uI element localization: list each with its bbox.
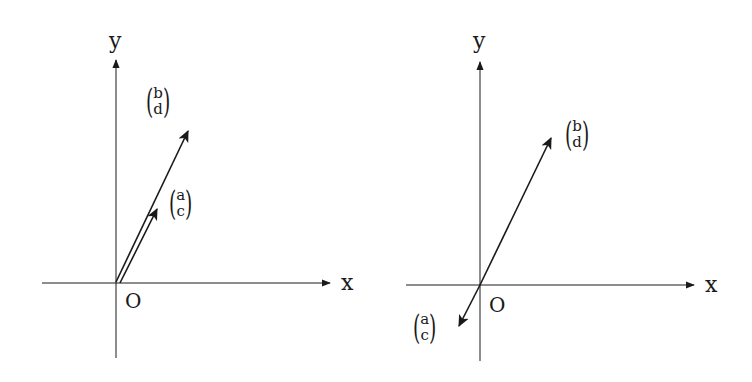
vector-bottom-entry: c bbox=[177, 203, 185, 219]
right-vector-ac-label: ( a c ) bbox=[410, 310, 439, 344]
right-origin-label: O bbox=[489, 293, 505, 317]
right-paren: ) bbox=[163, 84, 170, 118]
right-y-label: y bbox=[472, 28, 486, 53]
right-paren: ) bbox=[429, 310, 436, 344]
left-paren: ( bbox=[169, 186, 176, 220]
right-paren: ) bbox=[185, 186, 192, 220]
left-origin-label: O bbox=[125, 289, 141, 313]
left-y-label: y bbox=[108, 28, 122, 53]
left-x-label: x bbox=[341, 270, 354, 295]
right-vector-bd-label: ( b d ) bbox=[562, 117, 592, 151]
vector-top-entry: b bbox=[153, 85, 163, 101]
left-paren: ( bbox=[565, 117, 572, 151]
right-paren: ) bbox=[582, 117, 589, 151]
left-vector-ac-label: ( a c ) bbox=[166, 186, 195, 220]
vector-bottom-entry: c bbox=[421, 327, 429, 343]
diagram-canvas: y x O y x O bbox=[0, 0, 752, 382]
left-vector-ac bbox=[120, 209, 157, 283]
vector-top-entry: b bbox=[572, 118, 582, 134]
left-vector-bd-label: ( b d ) bbox=[143, 84, 173, 118]
left-paren: ( bbox=[146, 84, 153, 118]
vector-top-entry: a bbox=[176, 187, 185, 203]
right-x-label: x bbox=[705, 272, 718, 297]
vector-bottom-entry: d bbox=[572, 134, 582, 150]
left-diagram: y x O bbox=[42, 28, 354, 358]
vector-bottom-entry: d bbox=[153, 101, 163, 117]
right-diagram: y x O bbox=[406, 28, 718, 361]
right-vector-ac bbox=[459, 285, 480, 326]
left-paren: ( bbox=[413, 310, 420, 344]
vector-top-entry: a bbox=[420, 311, 429, 327]
right-vector-bd bbox=[480, 138, 551, 285]
